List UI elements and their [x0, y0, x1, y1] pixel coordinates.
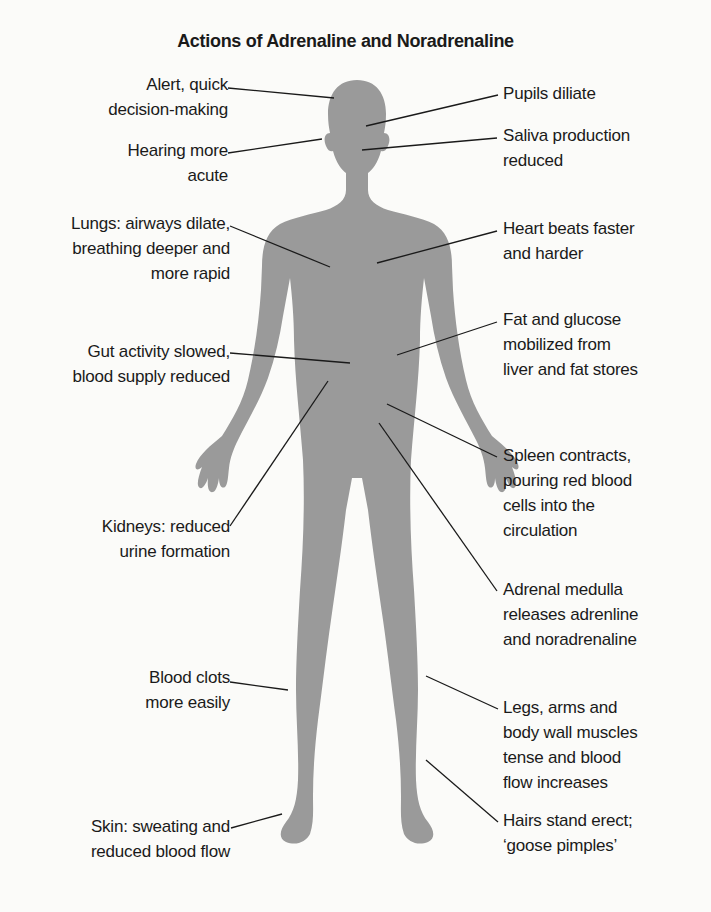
label-skin: Skin: sweating and reduced blood flow: [91, 814, 230, 864]
label-hearing: Hearing more acute: [127, 138, 228, 188]
label-fat-glucose: Fat and glucose mobilized from liver and…: [503, 307, 638, 382]
label-kidneys: Kidneys: reduced urine formation: [102, 514, 230, 564]
label-spleen: Spleen contracts, pouring red blood cell…: [503, 443, 632, 543]
leader-hearing: [228, 139, 322, 153]
leader-hairs: [426, 760, 498, 822]
leader-skin: [231, 814, 282, 828]
label-gut: Gut activity slowed, blood supply reduce…: [72, 339, 230, 389]
label-hairs: Hairs stand erect; ‘goose pimples’: [503, 808, 633, 858]
label-heart: Heart beats faster and harder: [503, 216, 635, 266]
leader-alert: [228, 88, 334, 98]
label-alert: Alert, quick decision-making: [108, 72, 228, 122]
body-silhouette: [195, 80, 518, 844]
leader-blood-clots: [230, 682, 288, 690]
label-saliva: Saliva production reduced: [503, 123, 630, 173]
label-pupils: Pupils diliate: [503, 81, 596, 106]
head-shape: [195, 80, 518, 844]
label-muscles: Legs, arms and body wall muscles tense a…: [503, 695, 638, 795]
label-lungs: Lungs: airways dilate, breathing deeper …: [71, 211, 230, 286]
label-adrenal: Adrenal medulla releases adrenline and n…: [503, 577, 638, 652]
leader-muscles: [426, 676, 498, 709]
label-blood-clots: Blood clots more easily: [145, 665, 230, 715]
